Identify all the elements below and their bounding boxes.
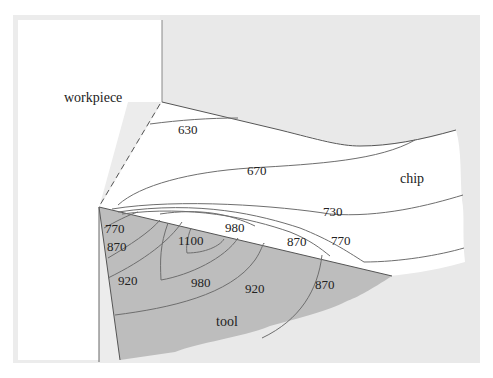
isotherm-label-670: 670 — [247, 164, 267, 177]
isotherm-label-870-tool-outer: 870 — [315, 278, 335, 291]
cutting-zone-diagram: workpiece chip tool 630 670 730 770 870 … — [0, 0, 493, 378]
isotherm-label-1100: 1100 — [178, 234, 204, 247]
diagram-canvas — [0, 0, 493, 378]
isotherm-label-870-tool: 870 — [107, 240, 127, 253]
tool-label: tool — [216, 315, 238, 329]
isotherm-label-920-tool-outer: 920 — [245, 282, 265, 295]
isotherm-label-870-chip: 870 — [287, 235, 307, 248]
chip-label: chip — [400, 172, 424, 186]
isotherm-label-770-tool: 770 — [105, 222, 125, 235]
isotherm-label-920-tool-inner: 920 — [118, 274, 138, 287]
workpiece-label: workpiece — [64, 91, 122, 105]
isotherm-label-980-chip: 980 — [225, 221, 245, 234]
isotherm-label-730: 730 — [323, 205, 343, 218]
isotherm-label-630: 630 — [178, 123, 198, 136]
isotherm-label-770-chip: 770 — [331, 234, 351, 247]
isotherm-label-980-tool: 980 — [191, 276, 211, 289]
